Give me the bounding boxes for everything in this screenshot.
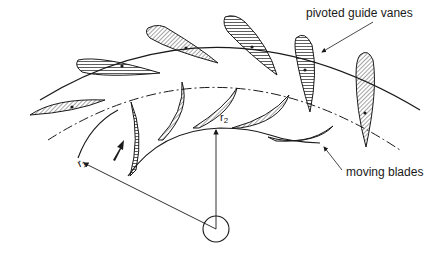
moving-blade-3: [193, 88, 237, 128]
flow-direction-arrow: [113, 140, 124, 161]
moving-blades: [128, 82, 333, 176]
guide-vane-1: [30, 100, 105, 115]
moving-blade-1: [130, 102, 139, 176]
guide-vane-4: [224, 16, 277, 75]
label-moving-blades: moving blades: [346, 166, 423, 178]
radius-r1-line: [84, 163, 216, 229]
diagram-canvas: [0, 0, 448, 256]
guide-vanes-leader: [322, 22, 373, 52]
r2-subscript: 2: [224, 116, 228, 125]
moving-blade-5: [268, 126, 333, 141]
guide-vane-2: [77, 59, 160, 75]
moving-blade-4: [232, 95, 289, 128]
inner-arc-r1: [78, 110, 118, 158]
moving-blades-leader: [324, 147, 342, 170]
label-r2: r2: [220, 112, 228, 125]
guide-vanes: [30, 16, 374, 147]
turbine-diagram: pivoted guide vanes moving blades r1 r2: [0, 0, 448, 256]
label-pivoted-guide-vanes: pivoted guide vanes: [306, 7, 413, 19]
guide-vane-3: [146, 25, 218, 63]
